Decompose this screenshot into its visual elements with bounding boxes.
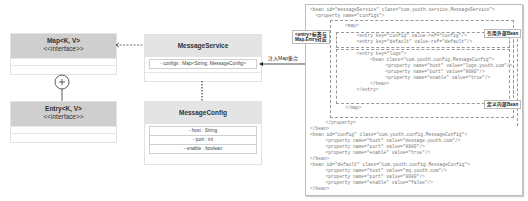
message-service-class: MessageService - configs : Map<String, M… — [144, 34, 262, 82]
message-service-attr: - configs : Map<String, MessageConfig> — [149, 59, 257, 69]
nested-class-connector-icon — [52, 73, 72, 103]
code-line: </entry> — [340, 87, 379, 93]
define-inner-bean-label: 定义内部Bean — [484, 100, 521, 109]
ref-connector-line — [513, 34, 514, 94]
entry-interface-class: Entry<K, V> <<interface>> — [10, 101, 117, 143]
map-interface-header: Map<K, V> <<interface>> — [11, 34, 116, 58]
map-interface-method-row — [11, 65, 116, 72]
code-line: <entry key="default" value-ref="default"… — [340, 39, 472, 45]
entry-interface-attr-row — [11, 126, 116, 133]
code-line: <map> — [334, 23, 359, 29]
entry-mapping-label: <entry>标签与 Map.Entry对应 — [292, 30, 330, 44]
code-line: </map> — [334, 105, 362, 111]
message-config-attr-host: - host : String — [150, 127, 256, 136]
message-service-header: MessageService — [145, 35, 261, 57]
entry-interface-name: Entry<K, V> — [11, 105, 116, 113]
message-config-header: MessageConfig — [145, 102, 261, 124]
map-interface-name: Map<K, V> — [11, 37, 116, 45]
map-interface-attr-row — [11, 58, 116, 65]
dependency-arrow — [114, 40, 146, 50]
inner-connector-line — [517, 34, 518, 126]
map-interface-class: Map<K, V> <<interface>> — [10, 33, 117, 75]
entry-mapping-label-line2: Map.Entry对应 — [295, 37, 327, 42]
message-service-method-row — [145, 72, 261, 79]
message-config-class: MessageConfig - host : String - port : i… — [144, 101, 262, 165]
inject-map-label: 注入Map集合 — [268, 54, 298, 61]
entry-interface-method-row — [11, 133, 116, 140]
ref-external-bean-label: 引用外部Bean — [484, 29, 521, 38]
message-config-attrs: - host : String - port : int - enable : … — [149, 126, 257, 154]
code-line: <property name="configs"> — [310, 13, 384, 19]
code-line: </bean> — [310, 186, 329, 192]
entry-interface-stereotype: <<interface>> — [11, 113, 116, 121]
entry-interface-header: Entry<K, V> <<interface>> — [11, 102, 116, 126]
association-link — [198, 80, 206, 102]
map-interface-stereotype: <<interface>> — [11, 45, 116, 53]
message-config-attr-port: - port : int — [150, 136, 256, 145]
message-config-attr-enable: - enable : boolean — [150, 145, 256, 153]
code-line: <property name="enable" value="false"/> — [320, 180, 433, 186]
code-line: <property name="enable" value="true"/> — [320, 150, 430, 156]
